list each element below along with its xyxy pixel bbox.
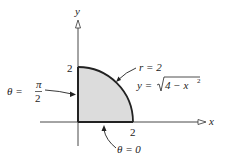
cartesian-curve-exponent: 2 — [197, 77, 201, 85]
polar-region-diagram: y x 2 2 r = 2 y = 4 − x 2 θ = π 2 θ = 0 — [0, 0, 227, 166]
x-axis-label: x — [208, 115, 214, 127]
arrowhead-icon — [70, 92, 76, 98]
theta-zero-pointer-arrow — [104, 130, 116, 148]
theta-pi-over-2-numerator: π — [36, 78, 42, 90]
x-axis-arrow-icon — [198, 120, 206, 125]
theta-pi-over-2-denominator: 2 — [35, 92, 41, 104]
polar-curve-label: r = 2 — [139, 61, 162, 73]
theta-pi-over-2-lhs: θ = — [7, 85, 23, 97]
y-axis-label: y — [74, 5, 80, 17]
cartesian-curve-radicand: 4 − x — [165, 79, 188, 91]
cartesian-curve-lhs: y = — [136, 79, 152, 91]
arrowhead-icon — [102, 125, 107, 131]
x-tick-2: 2 — [130, 126, 136, 138]
polar-curve-pointer-arrow — [118, 68, 136, 80]
theta-zero-label: θ = 0 — [117, 143, 141, 155]
y-axis-arrow-icon — [76, 20, 81, 28]
y-tick-2: 2 — [67, 62, 73, 74]
theta-pi-over-2-pointer-arrow — [45, 90, 72, 94]
